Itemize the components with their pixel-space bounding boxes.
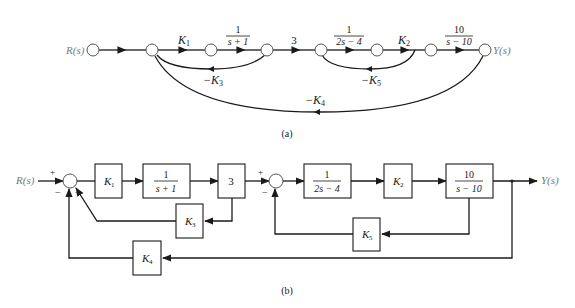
block-g3-den: s − 10 bbox=[456, 183, 482, 194]
block-g2-num: 1 bbox=[325, 169, 330, 180]
block-k3-sub: 3 bbox=[192, 221, 196, 229]
block-three-label: 3 bbox=[228, 175, 234, 187]
summing-junction-2 bbox=[269, 174, 283, 188]
sfg-label-g3-den: s − 10 bbox=[446, 36, 472, 47]
block-diagram: R(s) + − − K 1 1 s + 1 3 K 3 + − bbox=[15, 164, 559, 297]
sfg-label-k2-sub: 2 bbox=[406, 39, 410, 48]
sfg-label-neg-k5-sub: 5 bbox=[377, 79, 381, 88]
sfg-label-neg-k3: −K 3 bbox=[203, 73, 223, 88]
caption-b: (b) bbox=[281, 285, 293, 297]
sfg-label-k1: K 1 bbox=[177, 33, 190, 48]
summer1-minus-1: − bbox=[55, 187, 61, 198]
block-k4-sub: 4 bbox=[149, 258, 153, 266]
bd-wire-k4-s1 bbox=[69, 189, 133, 258]
sfg-label-g2: 1 2s − 4 bbox=[334, 24, 364, 47]
sfg-node-output bbox=[479, 44, 491, 56]
sfg-feedback-k3 bbox=[157, 55, 265, 69]
summing-junction-1 bbox=[63, 174, 77, 188]
block-g3-num: 10 bbox=[464, 169, 474, 180]
sfg-label-g1: 1 s + 1 bbox=[226, 24, 250, 47]
sfg-feedback-k5 bbox=[322, 50, 415, 69]
sfg-node-2 bbox=[146, 44, 158, 56]
caption-a: (a) bbox=[281, 128, 292, 140]
sfg-label-k2: K 2 bbox=[397, 33, 410, 48]
sfg-feedback-k5-arrow bbox=[366, 66, 372, 72]
sfg-label-neg-k5: −K 5 bbox=[361, 73, 381, 88]
block-k1-sub: 1 bbox=[111, 181, 115, 189]
sfg-node-input bbox=[87, 44, 99, 56]
sfg-node-3 bbox=[205, 44, 217, 56]
bd-wire-three-k3 bbox=[205, 198, 232, 221]
sfg-label-neg-k4-main: −K bbox=[305, 93, 322, 107]
block-g2-den: 2s − 4 bbox=[314, 183, 340, 194]
summer2-minus: − bbox=[262, 187, 268, 198]
sfg-feedback-k3-arrow bbox=[208, 66, 214, 72]
summer2-plus: + bbox=[258, 167, 263, 177]
sfg-node-5 bbox=[315, 44, 327, 56]
sfg-input-label: R(s) bbox=[65, 44, 85, 57]
sfg-label-g3: 10 s − 10 bbox=[445, 24, 473, 47]
sfg-feedback-k4-arrow bbox=[314, 109, 320, 115]
sfg-label-k1-sub: 1 bbox=[186, 39, 190, 48]
bd-wire-g3-k5 bbox=[382, 198, 469, 234]
bd-output-label: Y(s) bbox=[541, 174, 559, 187]
sfg-output-label: Y(s) bbox=[493, 44, 511, 57]
summer1-plus: + bbox=[50, 167, 55, 177]
sfg-label-g1-den: s + 1 bbox=[228, 36, 249, 47]
sfg-label-neg-k4: −K 4 bbox=[305, 93, 325, 108]
diagram-canvas: R(s) Y(s) bbox=[0, 0, 575, 308]
sfg-label-g2-num: 1 bbox=[347, 24, 352, 35]
block-k5-sub: 5 bbox=[369, 234, 373, 242]
bd-input-label: R(s) bbox=[15, 174, 35, 187]
block-k2-sub: 2 bbox=[400, 181, 404, 189]
sfg-label-neg-k4-sub: 4 bbox=[321, 99, 325, 108]
sfg-node-4 bbox=[261, 44, 273, 56]
sfg-node-7 bbox=[425, 44, 437, 56]
sfg-label-g3-num: 10 bbox=[454, 24, 464, 35]
signal-flow-graph: R(s) Y(s) bbox=[65, 24, 511, 140]
sfg-label-neg-k3-main: −K bbox=[203, 73, 220, 87]
sfg-node-6 bbox=[371, 44, 383, 56]
block-g1-den: s + 1 bbox=[156, 183, 177, 194]
sfg-label-neg-k5-main: −K bbox=[361, 73, 378, 87]
sfg-label-g1-num: 1 bbox=[236, 24, 241, 35]
sfg-label-neg-k3-sub: 3 bbox=[219, 79, 223, 88]
block-g1-num: 1 bbox=[164, 169, 169, 180]
sfg-label-g2-den: 2s − 4 bbox=[336, 36, 362, 47]
sfg-label-three: 3 bbox=[291, 34, 297, 46]
